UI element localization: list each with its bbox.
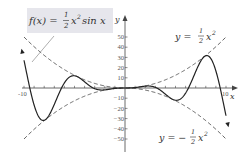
svg-text:30: 30	[118, 54, 125, 61]
svg-text:40: 40	[118, 43, 125, 50]
svg-text:−50: −50	[114, 135, 124, 142]
svg-text:2: 2	[63, 22, 69, 30]
x-axis-label: x	[230, 92, 235, 101]
svg-text:y = −: y = −	[158, 132, 186, 143]
svg-text:20: 20	[118, 64, 125, 71]
svg-text:−30: −30	[114, 115, 124, 122]
curve-arrow-right	[225, 122, 229, 127]
svg-text:50: 50	[118, 33, 125, 40]
svg-text:2: 2	[203, 130, 208, 137]
svg-text:−20: −20	[114, 105, 124, 112]
svg-text:f(x) =: f(x) =	[28, 15, 58, 26]
y-axis-label: y	[114, 15, 120, 24]
svg-text:1: 1	[64, 11, 68, 19]
upper-envelope-label: y = 1 2 x 2	[174, 27, 216, 45]
label-pointer-line	[32, 36, 54, 62]
lower-envelope-label: y = − 1 2 x 2	[158, 128, 208, 146]
svg-text:10: 10	[118, 74, 125, 81]
svg-text:sin x: sin x	[82, 15, 106, 26]
chart: -1010 5040302010−10−20−30−40−50 f(x) = 1…	[0, 0, 244, 156]
curve-arrow-left	[20, 49, 24, 54]
svg-text:1: 1	[199, 27, 203, 35]
svg-text:1: 1	[191, 128, 195, 136]
svg-text:y =: y =	[174, 31, 191, 42]
svg-text:10: 10	[222, 90, 229, 97]
svg-text:2: 2	[198, 37, 203, 45]
svg-text:2: 2	[190, 138, 195, 146]
svg-text:-10: -10	[18, 90, 27, 97]
svg-text:−40: −40	[114, 125, 124, 132]
svg-text:2: 2	[76, 13, 81, 20]
svg-text:2: 2	[211, 29, 216, 36]
svg-text:−10: −10	[114, 94, 124, 101]
